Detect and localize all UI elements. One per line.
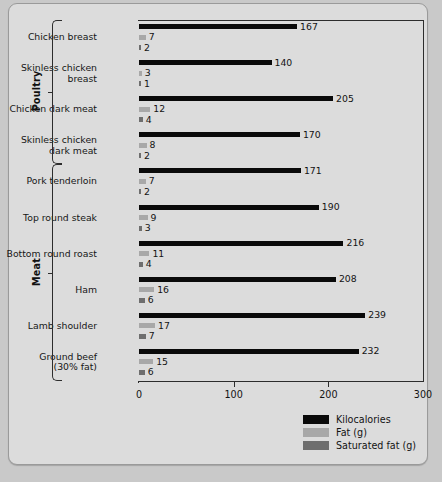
bar-value-fat: 9 (151, 213, 157, 222)
bar-kcal (139, 349, 359, 354)
bar-value-sat: 6 (148, 367, 154, 376)
legend-label: Kilocalories (336, 414, 391, 425)
bar-value-kcal: 190 (322, 202, 340, 211)
bar-kcal (139, 24, 297, 29)
bar-value-kcal: 171 (304, 166, 322, 175)
bar-value-fat: 3 (145, 68, 151, 77)
category-label-line: Top round steak (0, 213, 97, 224)
category-label-line: Chicken breast (0, 32, 97, 43)
bar-value-fat: 7 (149, 176, 155, 185)
bar-fat (139, 215, 148, 220)
category-label-line: dark meat (0, 146, 97, 157)
bar-value-fat: 8 (150, 140, 156, 149)
bar-value-fat: 11 (152, 249, 164, 258)
x-tick-label: 200 (319, 389, 337, 400)
bar-sat (139, 334, 146, 339)
legend-item: Saturated fat (g) (303, 439, 416, 452)
bar-value-sat: 2 (144, 187, 150, 196)
bar-sat (139, 117, 143, 122)
category-label: Chicken dark meat (0, 104, 97, 115)
bar-value-fat: 17 (158, 321, 170, 330)
bar-fat (139, 323, 155, 328)
group-label-poultry: Poultry (31, 71, 42, 112)
category-label-line: Bottom round roast (0, 249, 97, 260)
bar-fat (139, 287, 154, 292)
category-label: Top round steak (0, 213, 97, 224)
bar-sat (139, 298, 145, 303)
bar-value-fat: 15 (156, 357, 168, 366)
category-label: Skinless chickendark meat (0, 135, 97, 156)
category-label: Bottom round roast (0, 249, 97, 260)
bar-value-kcal: 232 (362, 346, 380, 355)
bar-value-fat: 7 (149, 32, 155, 41)
chart-panel: Chicken breast16772Skinless chickenbreas… (8, 3, 428, 465)
bar-sat (139, 226, 142, 231)
bar-value-kcal: 216 (346, 238, 364, 247)
bar-value-sat: 7 (149, 331, 155, 340)
bar-fat (139, 71, 142, 76)
bar-fat (139, 143, 147, 148)
bar-sat (139, 262, 143, 267)
bar-value-sat: 2 (144, 151, 150, 160)
bar-value-fat: 16 (157, 285, 169, 294)
bar-fat (139, 251, 149, 256)
x-tick (234, 382, 235, 387)
bar-value-sat: 1 (144, 79, 150, 88)
bar-value-kcal: 205 (336, 94, 354, 103)
category-label: Ground beef(30% fat) (0, 352, 97, 373)
bar-value-sat: 3 (145, 223, 151, 232)
category-label-line: Ham (0, 285, 97, 296)
bar-kcal (139, 313, 365, 318)
group-label-meat: Meat (31, 258, 42, 286)
bar-sat (139, 45, 141, 50)
bar-fat (139, 107, 150, 112)
legend-swatch (303, 441, 329, 450)
bar-value-sat: 4 (146, 259, 152, 268)
bar-value-kcal: 170 (303, 130, 321, 139)
bar-kcal (139, 132, 300, 137)
category-label: Chicken breast (0, 32, 97, 43)
legend-label: Fat (g) (336, 427, 367, 438)
group-bracket (52, 20, 62, 164)
bar-fat (139, 359, 153, 364)
category-label: Lamb shoulder (0, 321, 97, 332)
bar-value-sat: 2 (144, 43, 150, 52)
bar-fat (139, 35, 146, 40)
bar-value-kcal: 208 (339, 274, 357, 283)
legend-item: Fat (g) (303, 426, 416, 439)
bar-kcal (139, 168, 301, 173)
bar-kcal (139, 60, 272, 65)
category-label: Pork tenderloin (0, 176, 97, 187)
category-label-line: Chicken dark meat (0, 104, 97, 115)
bar-sat (139, 81, 141, 86)
category-label-line: Pork tenderloin (0, 176, 97, 187)
plot-area (138, 20, 424, 382)
bar-value-sat: 4 (146, 115, 152, 124)
bar-value-kcal: 239 (368, 310, 386, 319)
bar-sat (139, 153, 141, 158)
bar-value-kcal: 140 (275, 58, 293, 67)
category-label-line: breast (0, 74, 97, 85)
legend-swatch (303, 428, 329, 437)
legend-swatch (303, 415, 329, 424)
category-label-line: (30% fat) (0, 362, 97, 373)
group-bracket (52, 164, 62, 381)
legend-item: Kilocalories (303, 413, 416, 426)
legend: KilocaloriesFat (g)Saturated fat (g) (303, 413, 416, 452)
bar-value-kcal: 167 (300, 22, 318, 31)
x-tick-label: 0 (136, 389, 142, 400)
bar-kcal (139, 277, 336, 282)
x-tick (328, 382, 329, 387)
bar-fat (139, 179, 146, 184)
legend-label: Saturated fat (g) (336, 440, 416, 451)
category-label: Ham (0, 285, 97, 296)
category-label: Skinless chickenbreast (0, 63, 97, 84)
bar-value-fat: 12 (153, 104, 165, 113)
bar-kcal (139, 241, 343, 246)
bar-value-sat: 6 (148, 295, 154, 304)
x-tick-label: 100 (225, 389, 243, 400)
bar-sat (139, 370, 145, 375)
bar-kcal (139, 96, 333, 101)
x-tick-label: 300 (414, 389, 432, 400)
bar-sat (139, 189, 141, 194)
